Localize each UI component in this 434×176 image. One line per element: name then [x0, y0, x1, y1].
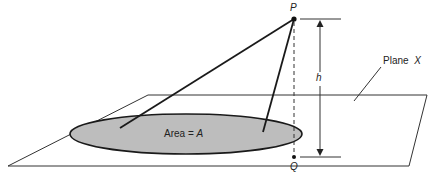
diagram-canvas: [0, 0, 434, 176]
point-p: [291, 16, 296, 21]
area-label-var: A: [197, 128, 204, 139]
label-h: h: [316, 73, 322, 83]
label-q: Q: [290, 162, 298, 172]
height-arrow-down-icon: [317, 149, 324, 156]
plane-x-label: Plane X: [383, 56, 421, 66]
height-arrow-up-icon: [317, 20, 324, 27]
label-p: P: [290, 3, 297, 13]
area-label: Area = A: [164, 129, 203, 139]
point-q: [292, 155, 296, 159]
plane-label-text: Plane: [383, 55, 409, 66]
area-label-text: Area =: [164, 128, 197, 139]
plane-label-var: X: [414, 55, 421, 66]
plane-label-leader: [354, 67, 381, 101]
